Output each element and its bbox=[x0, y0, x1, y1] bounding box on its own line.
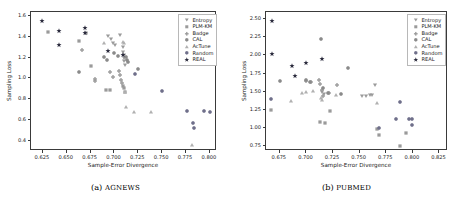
legend-label: CAL bbox=[421, 37, 431, 42]
data-point-actune bbox=[310, 88, 316, 94]
data-point-cal bbox=[346, 65, 352, 71]
y-tick-label: 1.2 bbox=[8, 54, 26, 60]
data-point-plm-km bbox=[376, 132, 382, 138]
x-tick bbox=[359, 150, 360, 153]
x-tick-label: 0.825 bbox=[431, 154, 446, 160]
x-tick bbox=[412, 150, 413, 153]
panel-pubmed: EntropyPLM-KMBadgeCALAcTuneRandomREAL 0.… bbox=[231, 0, 462, 213]
x-tick bbox=[66, 150, 67, 153]
y-tick bbox=[263, 127, 266, 128]
legend-label: REAL bbox=[421, 57, 434, 62]
star-icon bbox=[181, 57, 192, 63]
y-tick bbox=[28, 36, 31, 37]
data-point-actune bbox=[333, 92, 339, 98]
y-tick-label: 0.75 bbox=[243, 142, 261, 148]
triangle-up-icon bbox=[410, 44, 421, 50]
data-point-cal bbox=[325, 90, 331, 96]
legend-label: PLM-KM bbox=[421, 24, 441, 29]
data-point-real bbox=[319, 56, 325, 62]
data-point-entropy bbox=[117, 32, 123, 38]
x-axis-title: Sample-Error Divergence bbox=[88, 162, 158, 168]
x-tick-label: 0.775 bbox=[178, 154, 193, 160]
data-point-random bbox=[132, 71, 138, 77]
data-point-random bbox=[191, 125, 197, 131]
y-tick bbox=[263, 54, 266, 55]
x-axis-title: Sample-Error Divergence bbox=[321, 162, 391, 168]
data-point-actune bbox=[123, 104, 129, 110]
caption-index-a: (a) bbox=[91, 182, 102, 192]
data-point-real bbox=[303, 60, 309, 66]
y-axis-title: Sampling Loss bbox=[6, 60, 12, 100]
data-point-random bbox=[207, 109, 213, 115]
y-tick bbox=[28, 119, 31, 120]
hexagon-icon bbox=[181, 50, 192, 56]
x-tick bbox=[137, 150, 138, 153]
data-point-entropy bbox=[372, 82, 378, 88]
data-point-badge bbox=[92, 78, 98, 84]
triangle-down-icon bbox=[181, 17, 192, 23]
legend-item-actune[interactable]: AcTune bbox=[410, 43, 442, 50]
plot-area-pubmed: EntropyPLM-KMBadgeCALAcTuneRandomREAL 0.… bbox=[231, 0, 462, 178]
star-icon bbox=[410, 57, 421, 63]
data-point-entropy bbox=[369, 92, 375, 98]
x-tick-label: 0.750 bbox=[154, 154, 169, 160]
data-point-random bbox=[184, 108, 190, 114]
x-tick-label: 0.700 bbox=[298, 154, 313, 160]
x-tick-label: 0.700 bbox=[106, 154, 121, 160]
triangle-down-icon bbox=[410, 17, 421, 23]
x-tick-label: 0.650 bbox=[58, 154, 73, 160]
square-icon bbox=[181, 24, 192, 30]
triangle-up-icon bbox=[181, 44, 192, 50]
y-tick-label: 0.4 bbox=[8, 137, 26, 143]
legend-label: CAL bbox=[192, 37, 202, 42]
legend-label: PLM-KM bbox=[192, 24, 212, 29]
y-tick bbox=[263, 91, 266, 92]
data-point-entropy bbox=[112, 42, 118, 48]
y-tick bbox=[28, 140, 31, 141]
y-tick bbox=[263, 36, 266, 37]
data-point-real bbox=[105, 48, 111, 54]
data-point-plm-km bbox=[107, 87, 113, 93]
data-point-real bbox=[289, 63, 295, 69]
data-point-cal bbox=[104, 57, 110, 63]
y-tick-label: 1.4 bbox=[8, 33, 26, 39]
data-point-cal bbox=[307, 79, 313, 85]
y-tick bbox=[28, 57, 31, 58]
y-tick bbox=[28, 77, 31, 78]
data-point-cal bbox=[125, 59, 131, 65]
y-tick bbox=[28, 15, 31, 16]
x-tick-label: 0.675 bbox=[272, 154, 287, 160]
hexagon-icon bbox=[181, 37, 192, 43]
data-point-plm-km bbox=[76, 38, 82, 44]
x-tick bbox=[185, 150, 186, 153]
legend-label: Badge bbox=[421, 31, 437, 36]
legend-item-real[interactable]: REAL bbox=[181, 56, 213, 63]
data-point-badge bbox=[119, 80, 125, 86]
legend-label: AcTune bbox=[192, 44, 210, 49]
y-tick bbox=[263, 109, 266, 110]
data-point-actune bbox=[319, 97, 325, 103]
data-point-plm-km bbox=[322, 120, 328, 126]
legend-item-real[interactable]: REAL bbox=[410, 56, 442, 63]
x-tick bbox=[161, 150, 162, 153]
x-tick bbox=[113, 150, 114, 153]
legend-item-actune[interactable]: AcTune bbox=[181, 43, 213, 50]
y-tick-label: 2.00 bbox=[243, 51, 261, 57]
plot-area-agnews: EntropyPLM-KMBadgeCALAcTuneRandomREAL 0.… bbox=[0, 0, 231, 178]
data-point-actune bbox=[122, 40, 128, 46]
data-point-random bbox=[268, 96, 274, 102]
data-point-random bbox=[409, 116, 415, 122]
data-point-actune bbox=[122, 89, 128, 95]
legend-label: Entropy bbox=[192, 18, 212, 23]
x-tick bbox=[332, 150, 333, 153]
y-tick-label: 1.00 bbox=[243, 124, 261, 130]
data-point-plm-km bbox=[404, 130, 410, 136]
data-point-plm-km bbox=[45, 29, 51, 35]
data-point-badge bbox=[79, 47, 85, 53]
legend-label: Badge bbox=[192, 31, 208, 36]
x-tick bbox=[90, 150, 91, 153]
data-point-actune bbox=[148, 109, 154, 115]
data-point-random bbox=[159, 88, 165, 94]
caption-name-b: PUBMED bbox=[336, 184, 371, 192]
x-tick-label: 0.800 bbox=[202, 154, 217, 160]
